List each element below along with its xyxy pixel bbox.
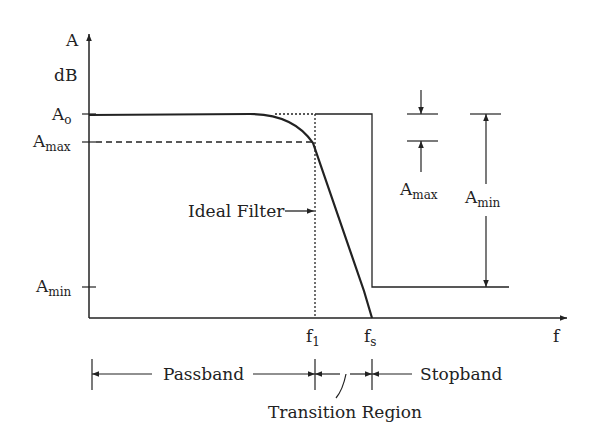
filter-spec-diagram: A dB Ao Amax Amin Ideal Filter Amax Amin… [0, 0, 594, 438]
x-axis-label: f [553, 326, 561, 346]
y-axis-unit: dB [54, 65, 77, 85]
label-amin: Amin [35, 276, 71, 299]
y-axis-label: A [65, 30, 79, 50]
label-amax: Amax [32, 131, 71, 154]
transition-label: Transition Region [268, 402, 422, 422]
label-fs: fs [364, 326, 376, 349]
ideal-filter-label: Ideal Filter [188, 201, 285, 221]
passband-label: Passband [163, 364, 244, 384]
diagram-svg: A dB Ao Amax Amin Ideal Filter Amax Amin… [0, 0, 594, 438]
amin-marker-label: Amin [464, 187, 500, 210]
transition-leader-line [336, 374, 346, 398]
label-f1: f1 [306, 326, 320, 349]
amax-marker-label: Amax [399, 179, 438, 202]
stopband-label: Stopband [420, 364, 503, 384]
label-a0: Ao [51, 104, 72, 127]
